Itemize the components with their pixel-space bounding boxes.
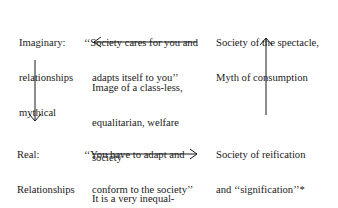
arrow-reification-to-spectacle (260, 38, 272, 115)
arrow-imaginary-to-real (29, 60, 41, 121)
arrow-spectacle-to-imaginary (94, 37, 197, 47)
arrows-layer (0, 0, 338, 208)
arrow-real-to-reification (92, 149, 197, 159)
